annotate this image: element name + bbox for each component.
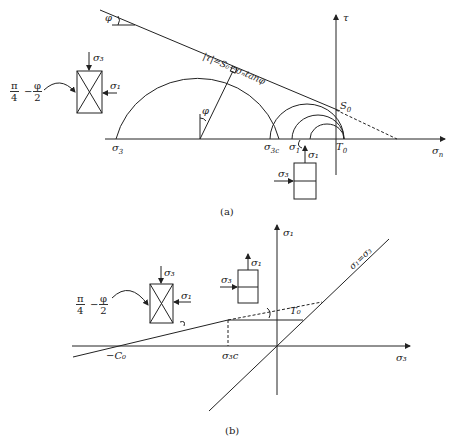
sigma3-axis-label: σ₃ bbox=[396, 353, 407, 363]
sigma3c-label: σ3c bbox=[264, 142, 279, 155]
sigma1-axis-label: σ₁ bbox=[283, 228, 294, 238]
failure-line-b bbox=[73, 320, 228, 357]
element-b-left-sigma3: σ₃ bbox=[164, 268, 175, 278]
caption-b: (b) bbox=[225, 425, 239, 436]
element-b-right-sigma1: σ₁ bbox=[251, 258, 262, 268]
phi-center-label: φ bbox=[202, 106, 209, 116]
sigma1-equals-sigma3-line bbox=[209, 239, 389, 411]
mohr-circle-4 bbox=[310, 124, 344, 139]
element-b-right-sigma3: σ₃ bbox=[221, 275, 232, 285]
angle-fraction-a-2: φ2 bbox=[33, 80, 42, 103]
caption-a: (a) bbox=[220, 206, 234, 217]
sigma-n-axis-label: σn bbox=[432, 146, 443, 159]
angle-fraction-b-minus: − bbox=[90, 300, 98, 310]
element-a-left-sigma1: σ₁ bbox=[110, 81, 121, 91]
sigma3c-b-label: σ₃c bbox=[222, 351, 238, 361]
mohr-circle-large bbox=[116, 78, 279, 139]
element-a-left-sigma3: σ₃ bbox=[93, 53, 104, 63]
dashed-continuation bbox=[228, 302, 322, 320]
mohr-circle-2 bbox=[270, 104, 344, 139]
sigma3-label: σ3 bbox=[112, 143, 123, 156]
S0-label: S0 bbox=[340, 101, 351, 114]
envelope-extension-dashed bbox=[336, 110, 397, 139]
angle-fraction-b-1: π4 bbox=[76, 293, 85, 316]
sigma1-label: σ1 bbox=[289, 142, 300, 155]
minus-C0-label: −C₀ bbox=[106, 351, 126, 361]
tau-axis-label: τ bbox=[343, 13, 349, 23]
phi-top-label: φ bbox=[105, 13, 112, 23]
angle-fraction-b-2: φ2 bbox=[99, 293, 108, 316]
angle-fraction-a-minus: − bbox=[24, 87, 32, 97]
element-b-left-sigma1: σ₁ bbox=[181, 291, 192, 301]
T0-b-label: T₀ bbox=[290, 306, 301, 316]
element-a-bottom-sigma3: σ₃ bbox=[278, 169, 289, 179]
T0-label: T0 bbox=[336, 142, 347, 155]
element-a-bottom-sigma1: σ₁ bbox=[308, 150, 319, 160]
angle-fraction-a-1: π4 bbox=[10, 80, 19, 103]
